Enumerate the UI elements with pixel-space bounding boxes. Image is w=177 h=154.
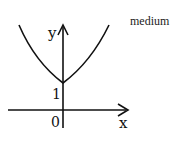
origin-label: 0 <box>51 114 60 130</box>
y-axis-label: y <box>47 24 57 42</box>
difficulty-label: medium <box>130 14 169 29</box>
curve <box>19 25 109 83</box>
x-axis-label: x <box>119 114 128 132</box>
y-intercept-label: 1 <box>52 86 61 102</box>
